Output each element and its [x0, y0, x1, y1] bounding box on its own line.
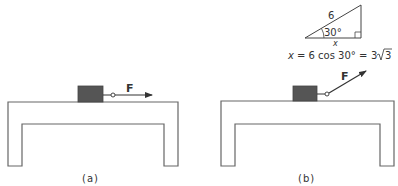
force-label-a: F — [126, 82, 134, 95]
force-label-b: F — [341, 70, 349, 83]
panel-b: F (b) — [221, 70, 394, 184]
force-triangle: 6 30° x — [305, 5, 361, 48]
hook-b — [325, 92, 329, 96]
right-angle-marker — [355, 32, 361, 38]
table-a — [8, 102, 178, 166]
block-b — [293, 86, 317, 101]
equation-middle: = 6 cos 30° = — [297, 50, 367, 61]
equation: x = 6 cos 30° = 3 3 — [287, 49, 392, 61]
hook-a — [111, 93, 115, 97]
panel-a: F (a) — [8, 82, 178, 184]
block-a — [78, 86, 103, 102]
equation-rhs-radicand: 3 — [385, 50, 391, 61]
angle-label: 30° — [324, 27, 342, 38]
equation-rhs-coef: 3 — [371, 50, 377, 61]
hypotenuse-label: 6 — [328, 10, 334, 21]
friction-diagram: F (a) F (b) 6 30° x x = 6 cos 30° = 3 3 — [0, 0, 398, 186]
equation-lhs: x — [287, 50, 294, 61]
table-b — [221, 101, 394, 166]
base-label: x — [332, 39, 338, 48]
caption-a: (a) — [82, 173, 99, 184]
caption-b: (b) — [298, 173, 315, 184]
